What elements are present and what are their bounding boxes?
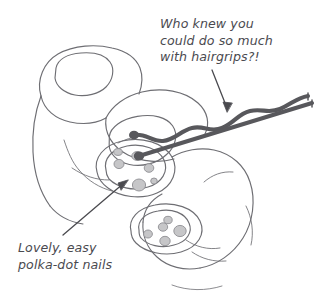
polka-dot [144, 230, 153, 238]
polka-dot [114, 159, 124, 168]
illustration-canvas: Who knew you could do so much with hairg… [0, 0, 325, 305]
polka-dots-ring-nail [144, 216, 187, 245]
hairgrip-caption: Who knew you could do so much with hairg… [160, 16, 273, 66]
polka-dot [164, 216, 172, 223]
hairgrip-wavy-arm [134, 96, 308, 141]
polka-dot [160, 236, 170, 245]
nails-caption: Lovely, easy polka-dot nails [18, 240, 112, 273]
polka-dot [174, 225, 186, 236]
hairgrip-tip [129, 131, 139, 140]
polka-dot [151, 178, 158, 184]
hairgrip-tip [134, 152, 144, 161]
hairgrip-arrow [212, 70, 232, 112]
hairgrip-straight-arm [139, 103, 312, 156]
nails-arrow [63, 180, 128, 235]
polka-dot [114, 149, 123, 156]
polka-dot [144, 164, 154, 173]
polka-dot [132, 179, 145, 191]
polka-dot [158, 223, 167, 231]
hairgrip [134, 96, 312, 156]
